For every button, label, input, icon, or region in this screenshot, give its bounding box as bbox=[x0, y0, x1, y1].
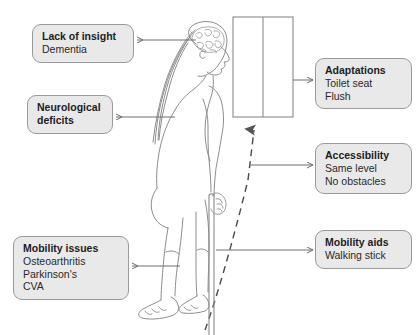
callout-neurological-deficits[interactable]: Neurological deficits bbox=[27, 95, 113, 134]
callout-line: Walking stick bbox=[325, 249, 403, 262]
callout-line: No obstacles bbox=[325, 175, 403, 188]
callout-title: Mobility aids bbox=[325, 236, 403, 249]
callout-accessibility[interactable]: Accessibility Same level No obstacles bbox=[315, 143, 412, 194]
callout-title-cont: deficits bbox=[37, 114, 104, 127]
callout-mobility-aids[interactable]: Mobility aids Walking stick bbox=[315, 230, 412, 269]
callout-line: Osteoarthritis bbox=[23, 255, 120, 268]
callout-mobility-issues[interactable]: Mobility issues Osteoarthritis Parkinson… bbox=[13, 236, 129, 300]
callout-line: Flush bbox=[325, 90, 403, 103]
diagram-canvas: Lack of insight Dementia Neurological de… bbox=[0, 0, 418, 335]
elderly-person-figure bbox=[139, 22, 229, 320]
callout-line: Dementia bbox=[42, 43, 125, 56]
callout-lack-of-insight[interactable]: Lack of insight Dementia bbox=[32, 24, 134, 63]
callout-line: Same level bbox=[325, 162, 403, 175]
callout-title: Lack of insight bbox=[42, 30, 125, 43]
callout-line: CVA bbox=[23, 280, 120, 293]
toilet-cubicle bbox=[233, 17, 293, 117]
dashed-path-arrow bbox=[205, 130, 254, 330]
callout-adaptations[interactable]: Adaptations Toilet seat Flush bbox=[315, 58, 412, 109]
callout-title: Adaptations bbox=[325, 64, 403, 77]
walking-stick bbox=[209, 194, 214, 335]
callout-title: Neurological bbox=[37, 101, 104, 114]
callout-line: Parkinson's bbox=[23, 268, 120, 281]
callout-title: Mobility issues bbox=[23, 242, 120, 255]
callout-title: Accessibility bbox=[325, 149, 403, 162]
callout-line: Toilet seat bbox=[325, 77, 403, 90]
